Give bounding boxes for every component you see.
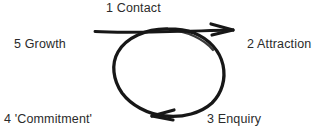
stage-label-contact: 1 Contact (106, 2, 161, 16)
stage-label-enquiry: 3 Enquiry (207, 113, 261, 127)
stage-label-growth: 5 Growth (14, 38, 66, 52)
stage-label-attraction: 2 Attraction (247, 38, 311, 52)
stage-label-commitment: 4 'Commitment' (4, 113, 92, 127)
cycle-loop-icon (114, 29, 224, 116)
entry-line-icon (95, 30, 231, 32)
diagram-canvas: 1 Contact 2 Attraction 3 Enquiry 4 'Comm… (0, 0, 332, 138)
